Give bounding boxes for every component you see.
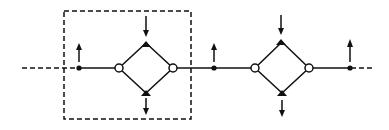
junction-1 [76, 43, 82, 71]
diamond-outline [255, 42, 309, 93]
diamond-1 [115, 16, 177, 115]
junction-2 [211, 43, 217, 71]
diamond-2 [251, 15, 313, 117]
bottom-triangle-icon [277, 90, 287, 96]
junction-3 [347, 39, 353, 71]
top-triangle-icon [141, 41, 151, 47]
diamond-outline [119, 43, 173, 93]
bottom-triangle-icon [141, 90, 151, 96]
junction-dot [211, 65, 216, 70]
left-node-circle [251, 64, 259, 72]
junction-dot [76, 65, 81, 70]
diagram-canvas [0, 0, 389, 130]
left-node-circle [115, 64, 123, 72]
right-node-circle [169, 64, 177, 72]
junction-dot [347, 65, 352, 70]
top-triangle-icon [276, 39, 286, 45]
right-node-circle [305, 64, 313, 72]
